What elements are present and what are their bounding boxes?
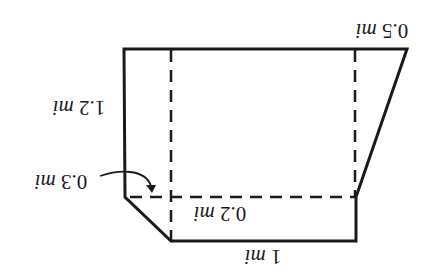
- arrowhead-icon: [146, 185, 156, 193]
- svg-text:1 mi: 1 mi: [244, 245, 281, 269]
- label-corner-callout: 0.3 mi: [35, 170, 88, 194]
- label-bottom: 1 mi: [244, 245, 281, 269]
- label-inner-strip: 0.2 mi: [194, 202, 247, 226]
- svg-text:0.2 mi: 0.2 mi: [194, 202, 247, 226]
- svg-text:0.5 mi: 0.5 mi: [356, 19, 409, 43]
- label-left-side: 1.2 mi: [53, 96, 106, 120]
- land-plot-diagram: 0.5 mi 1.2 mi 0.3 mi 0.2 mi 1 mi: [0, 0, 434, 274]
- svg-text:1.2 mi: 1.2 mi: [53, 96, 106, 120]
- label-top-right: 0.5 mi: [356, 19, 409, 43]
- plot-outline: [124, 49, 407, 241]
- svg-text:0.3 mi: 0.3 mi: [35, 170, 88, 194]
